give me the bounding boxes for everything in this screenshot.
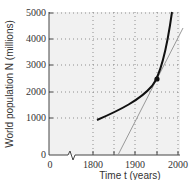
population-chart: 5000 4000 3000 2000 1000 0 0 1800 1900 2… <box>0 0 193 180</box>
y-tick-5000: 5000 <box>26 7 46 18</box>
x-tick-0: 0 <box>48 159 53 170</box>
x-tick-2000: 2000 <box>168 159 188 170</box>
y-tick-2000: 2000 <box>26 86 46 97</box>
y-tick-4000: 4000 <box>26 33 46 44</box>
plot-area <box>49 12 180 155</box>
y-tick-1000: 1000 <box>26 112 46 123</box>
x-tick-1900: 1900 <box>125 159 145 170</box>
y-tick-0: 0 <box>41 149 46 160</box>
tangent-point <box>154 76 159 81</box>
y-tick-3000: 3000 <box>26 59 46 70</box>
x-axis-label: Time t (years) <box>99 170 160 180</box>
y-axis-label: World population N (millions) <box>4 20 15 148</box>
x-tick-1800: 1800 <box>83 159 103 170</box>
